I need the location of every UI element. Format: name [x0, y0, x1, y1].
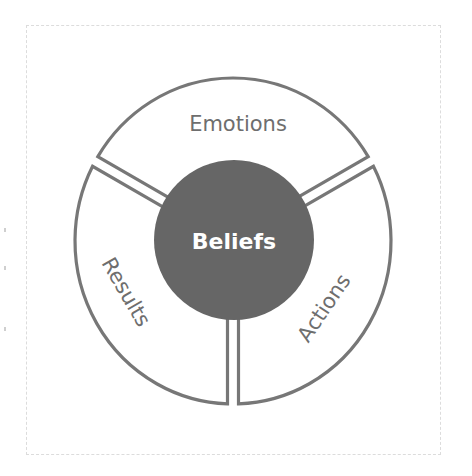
core-label-beliefs: Beliefs — [192, 229, 276, 254]
segment-label-emotions: Emotions — [189, 112, 287, 136]
beliefs-cycle-diagram: Emotions Actions Results Beliefs — [0, 0, 472, 476]
